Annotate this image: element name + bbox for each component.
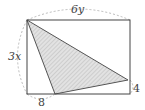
shaded-triangle [27, 20, 128, 94]
label-right-segment: 4 [133, 82, 140, 95]
label-bottom-segment: 8 [38, 96, 45, 109]
geometry-diagram: 6y 3x 8 4 [0, 0, 145, 110]
label-top: 6y [71, 3, 85, 16]
label-left: 3x [8, 50, 22, 63]
